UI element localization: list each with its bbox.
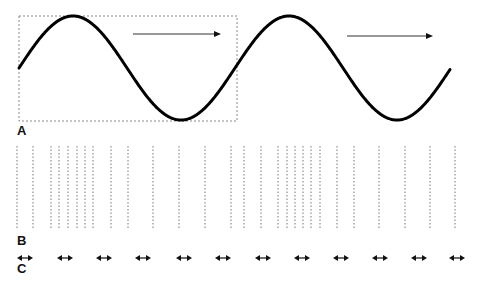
double-arrow-icon: [176, 255, 192, 261]
double-arrow-icon: [411, 255, 427, 261]
panel-b-dotted-lines: [17, 146, 455, 230]
panel-label-c: C: [17, 262, 26, 275]
arrowhead-icon: [214, 31, 221, 37]
double-arrow-icon: [449, 255, 465, 261]
propagation-arrows: [133, 31, 433, 39]
double-arrow-icon: [333, 255, 349, 261]
double-arrow-icon: [255, 255, 271, 261]
double-arrow-icon: [215, 255, 231, 261]
panel-label-a: A: [17, 124, 26, 137]
panel-c-oscillation-arrows: [17, 255, 465, 261]
double-arrow-icon: [372, 255, 388, 261]
arrowhead-icon: [426, 33, 433, 39]
propagation-arrow: [133, 31, 221, 37]
double-arrow-icon: [96, 255, 112, 261]
sine-wave-curve: [19, 16, 450, 120]
diagram-canvas: [0, 0, 478, 282]
panel-label-b: B: [17, 234, 26, 247]
double-arrow-icon: [57, 255, 73, 261]
propagation-arrow: [347, 33, 433, 39]
double-arrow-icon: [294, 255, 310, 261]
double-arrow-icon: [135, 255, 151, 261]
panel-a-sine-wave: [19, 16, 450, 121]
